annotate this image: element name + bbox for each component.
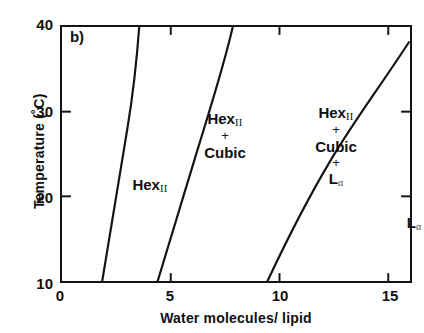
degree-symbol-icon: ° [29,109,43,115]
y-axis-title-suffix: C) [31,93,47,108]
region-triple-subscript3: α [338,177,343,188]
y-axis-title-prefix: Temperature ( [31,114,47,209]
region-hex2cubic-line1: Hex [207,110,235,127]
region-triple-line3: L [329,170,338,187]
x-tick-label-5: 5 [150,287,190,304]
phase-boundary-curve-1 [102,27,139,281]
region-label-hex2-cubic: HexII + Cubic [182,111,268,161]
region-triple-plus1: + [290,122,382,138]
phase-diagram-figure: HexII HexII + Cubic HexII + Cubic + Lα L… [0,0,424,333]
y-tick-label-40: 40 [19,16,53,33]
x-tick-label-15: 15 [370,287,410,304]
x-axis-title-prefix: Water molecules/ [160,310,278,326]
x-tick-label-10: 10 [260,287,300,304]
x-axis-title: Water molecules/ lipid [60,310,412,326]
region-label-hex2: HexII [120,177,180,194]
region-label-hex2-cubic-lalpha: HexII + Cubic + Lα [290,105,382,188]
region-lalpha-subscript: α [416,221,421,232]
plot-area: HexII HexII + Cubic HexII + Cubic + Lα L… [60,25,412,283]
x-axis-title-suffix: lipid [282,310,312,326]
panel-label: b) [70,28,84,45]
region-lalpha-text: L [407,214,416,231]
region-hex2cubic-line2: Cubic [182,145,268,161]
region-hex2-text: Hex [132,176,160,193]
region-hex2-subscript: II [160,183,168,194]
region-triple-subscript1: II [346,111,354,122]
y-axis-title: Temperature (°C) [29,51,48,251]
region-hex2cubic-subscript: II [235,117,243,128]
region-triple-plus2: + [290,155,382,171]
region-hex2cubic-plus: + [182,128,268,144]
region-label-lalpha: Lα [390,215,424,232]
region-triple-line2: Cubic [290,139,382,155]
region-triple-line1: Hex [318,104,346,121]
x-tick-label-0: 0 [40,287,80,304]
